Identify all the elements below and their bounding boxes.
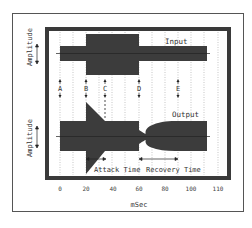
input-amplitude-label: Amplitude — [26, 28, 34, 66]
output-label: Output — [172, 110, 199, 119]
input-amplitude-arrow-icon — [36, 44, 39, 64]
x-axis-label: mSec — [131, 201, 148, 209]
x-tick-label: 110 — [213, 185, 224, 192]
recovery-time-label: Recovery Time — [146, 166, 201, 174]
x-tick-label: 20 — [82, 185, 90, 192]
x-tick-label: 100 — [186, 185, 197, 192]
output-amplitude-label: Amplitude — [26, 119, 34, 157]
x-tick-label: 60 — [135, 185, 143, 192]
input-label: Input — [165, 37, 188, 46]
compressor-timing-diagram: ABCDE Input Output Attack Time Recovery … — [0, 0, 252, 228]
attack-time-label: Attack Time — [94, 166, 140, 174]
marker-label: C — [103, 85, 107, 93]
marker-label: E — [176, 85, 180, 93]
x-tick-label: 40 — [109, 185, 117, 192]
marker-label: D — [137, 85, 141, 93]
marker-label: B — [84, 85, 88, 93]
output-amplitude-arrow-icon — [36, 126, 39, 148]
x-tick-label: 0 — [58, 185, 62, 192]
x-axis-ticks: 020406080100110 — [58, 185, 224, 192]
x-tick-label: 80 — [161, 185, 169, 192]
input-loud-burst — [86, 34, 139, 75]
